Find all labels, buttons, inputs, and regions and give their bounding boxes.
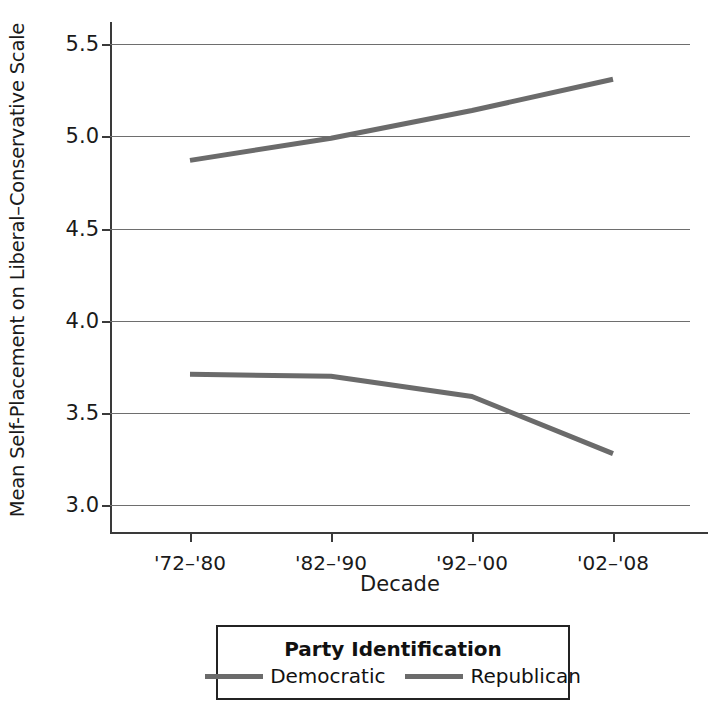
y-tick-mark — [102, 505, 110, 507]
y-axis-title: Mean Self-Placement on Liberal–Conservat… — [0, 0, 34, 540]
legend-label-republican: Republican — [470, 664, 580, 688]
chart-figure: Mean Self-Placement on Liberal–Conservat… — [0, 0, 727, 717]
line-series-democratic — [190, 374, 613, 453]
y-tick-label: 5.0 — [66, 124, 99, 148]
legend-line-swatch-icon — [405, 674, 463, 679]
y-tick-label: 5.5 — [66, 32, 99, 56]
series-lines — [110, 22, 690, 533]
y-tick-mark — [102, 413, 110, 415]
legend-entry-republican[interactable]: Republican — [405, 664, 580, 688]
y-tick-mark — [102, 136, 110, 138]
x-tick-mark — [472, 533, 474, 542]
legend-entries: Democratic Republican — [205, 664, 581, 688]
legend-box: Party Identification Democratic Republic… — [216, 625, 570, 700]
y-tick-label: 3.5 — [66, 401, 99, 425]
y-tick-label: 4.5 — [66, 217, 99, 241]
y-tick-mark — [102, 321, 110, 323]
legend-label-democratic: Democratic — [270, 664, 385, 688]
y-tick-label: 4.0 — [66, 309, 99, 333]
y-tick-mark — [102, 44, 110, 46]
x-tick-mark — [190, 533, 192, 542]
x-tick-mark — [613, 533, 615, 542]
plot-area: 3.03.54.04.55.05.5 '72–'80'82–'90'92–'00… — [110, 22, 690, 533]
x-tick-mark — [331, 533, 333, 542]
legend-line-swatch-icon — [205, 674, 263, 679]
line-series-republican — [190, 79, 613, 160]
legend-entry-democratic[interactable]: Democratic — [205, 664, 385, 688]
x-axis-title: Decade — [110, 572, 690, 596]
y-tick-label: 3.0 — [66, 493, 99, 517]
legend-title: Party Identification — [284, 637, 502, 661]
y-tick-mark — [102, 229, 110, 231]
